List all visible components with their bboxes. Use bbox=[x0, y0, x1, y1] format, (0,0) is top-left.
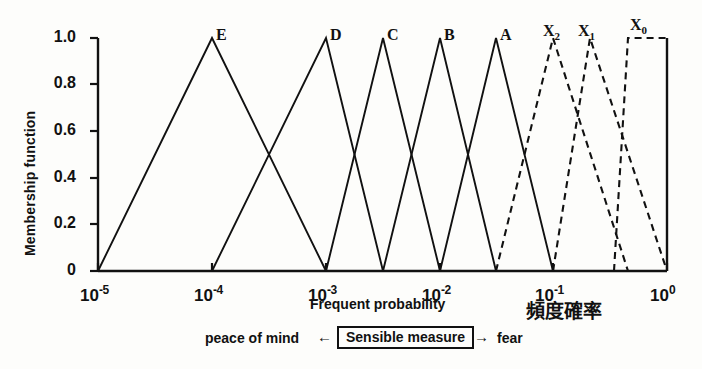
series-label-X0-base: X bbox=[630, 16, 642, 33]
x-tick-exponent: -1 bbox=[554, 283, 564, 297]
series-label-X0: X0 bbox=[630, 16, 647, 36]
series-label-X0-sub: 0 bbox=[642, 24, 648, 36]
x-tick-mantissa: 10 bbox=[194, 286, 213, 305]
axis-group bbox=[90, 38, 667, 271]
series-label-A: A bbox=[500, 26, 512, 44]
x-tick-exponent: -2 bbox=[441, 283, 451, 297]
x-tick-exponent: -5 bbox=[99, 283, 109, 297]
x-tick-label-1e-4: 10-4 bbox=[194, 283, 223, 306]
series-label-X2-base: X bbox=[543, 22, 555, 39]
y-tick-label-0: 0 bbox=[30, 261, 76, 279]
series-label-E: E bbox=[216, 26, 227, 44]
x-tick-exponent: -4 bbox=[213, 283, 223, 297]
x-tick-exponent: 0 bbox=[669, 283, 675, 297]
footer-left-arrow: ← bbox=[317, 328, 332, 345]
x-tick-exponent: -3 bbox=[327, 283, 337, 297]
series-label-X1: X1 bbox=[578, 22, 595, 42]
series-label-X1-sub: 1 bbox=[590, 30, 596, 42]
series-label-C: C bbox=[387, 26, 399, 44]
curve-C bbox=[326, 38, 440, 271]
series-label-X1-base: X bbox=[578, 22, 590, 39]
x-axis-title-en: Frequent probability bbox=[310, 296, 445, 312]
curve-A bbox=[440, 38, 553, 271]
dashed-membership-curves bbox=[496, 38, 667, 271]
x-tick-label-1e0: 100 bbox=[650, 283, 675, 306]
curve-E bbox=[98, 38, 326, 271]
curve-D bbox=[212, 38, 383, 271]
x-tick-mantissa: 10 bbox=[650, 286, 669, 305]
series-label-B: B bbox=[444, 26, 455, 44]
curve-X2 bbox=[496, 38, 628, 271]
series-label-X2: X2 bbox=[543, 22, 560, 42]
x-axis-title-ja: 頻度確率 bbox=[526, 296, 602, 323]
footer-left-text: peace of mind bbox=[205, 330, 299, 346]
curve-B bbox=[383, 38, 496, 271]
series-label-D: D bbox=[330, 26, 342, 44]
footer-right-text: fear bbox=[497, 330, 523, 346]
footer-boxed-label: Sensible measure bbox=[337, 326, 474, 349]
figure-canvas: 1.0 0.8 0.6 0.4 0.2 0 Membership functio… bbox=[0, 0, 702, 369]
x-tick-label-1e-5: 10-5 bbox=[80, 283, 109, 306]
curve-X0 bbox=[614, 38, 667, 271]
x-tick-mantissa: 10 bbox=[80, 286, 99, 305]
footer-right-arrow: → bbox=[474, 328, 489, 345]
series-label-X2-sub: 2 bbox=[555, 30, 561, 42]
y-axis-title: Membership function bbox=[22, 26, 38, 256]
curve-X1 bbox=[553, 38, 667, 271]
solid-membership-curves bbox=[98, 38, 553, 271]
